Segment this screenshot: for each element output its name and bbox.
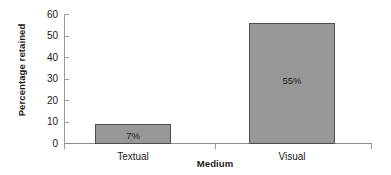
y-tick-mark-60: [65, 14, 69, 15]
x-tick-mark-middle: [215, 144, 216, 149]
y-tick-label-50: 50: [36, 31, 58, 41]
y-tick-mark-20: [65, 100, 69, 101]
y-tick-mark-40: [65, 57, 69, 58]
y-tick-label-10: 10: [36, 117, 58, 127]
y-tick-label-0: 0: [36, 139, 58, 149]
x-tick-mark-end: [371, 144, 372, 149]
y-axis-line: [64, 14, 65, 144]
y-tick-label-60: 60: [36, 10, 58, 20]
bar-textual: 7%: [95, 124, 171, 144]
x-tick-mark-start: [64, 144, 65, 149]
y-tick-mark-50: [65, 36, 69, 37]
y-tick-label-40: 40: [36, 53, 58, 63]
y-tick-label-20: 20: [36, 96, 58, 106]
x-axis-title: Medium: [155, 158, 275, 170]
y-axis-title: Percentage retained: [15, 5, 29, 135]
bar-value-label-textual: 7%: [96, 130, 170, 141]
bar-value-label-visual: 55%: [250, 75, 334, 86]
y-tick-mark-30: [65, 79, 69, 80]
y-tick-label-30: 30: [36, 74, 58, 84]
bar-visual: 55%: [249, 23, 335, 144]
y-tick-mark-10: [65, 122, 69, 123]
bar-chart: Percentage retained 60 50 40 30 20 10 0 …: [0, 0, 391, 175]
